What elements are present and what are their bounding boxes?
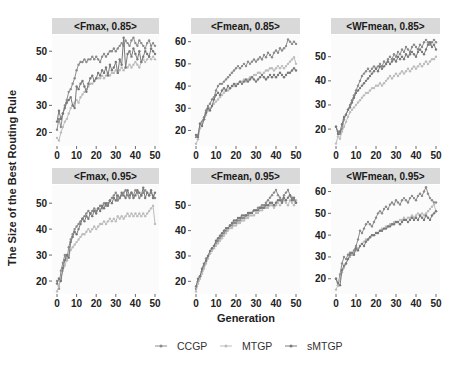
data-point-smtgp: [221, 232, 223, 234]
data-point-mtgp: [361, 97, 363, 99]
data-point-ccgp: [75, 225, 77, 227]
y-tick-label: 50: [175, 58, 187, 69]
data-point-smtgp: [291, 199, 293, 201]
data-point-mtgp: [261, 209, 263, 211]
data-point-ccgp: [221, 83, 223, 85]
faceted-line-chart: The Size of the Best Routing Rule Genera…: [0, 0, 460, 368]
data-point-smtgp: [405, 219, 407, 221]
data-point-smtgp: [407, 56, 409, 58]
data-point-ccgp: [435, 41, 437, 43]
data-point-ccgp: [407, 48, 409, 50]
data-point-mtgp: [62, 126, 64, 128]
data-point-smtgp: [289, 194, 291, 196]
data-point-smtgp: [237, 83, 239, 85]
data-point-ccgp: [154, 45, 156, 47]
data-point-smtgp: [68, 256, 70, 258]
data-point-mtgp: [407, 68, 409, 70]
data-point-smtgp: [355, 92, 357, 94]
data-point-mtgp: [281, 65, 283, 67]
data-point-mtgp: [363, 94, 365, 96]
data-point-ccgp: [231, 72, 233, 74]
data-point-smtgp: [148, 55, 150, 57]
data-point-smtgp: [197, 278, 199, 280]
data-point-smtgp: [58, 277, 60, 279]
data-point-smtgp: [409, 53, 411, 55]
data-point-ccgp: [435, 201, 437, 203]
data-point-ccgp: [227, 76, 229, 78]
data-point-smtgp: [419, 48, 421, 50]
data-point-mtgp: [113, 218, 115, 220]
data-point-mtgp: [93, 225, 95, 227]
data-point-smtgp: [275, 202, 277, 204]
data-point-mtgp: [417, 65, 419, 67]
data-point-smtgp: [279, 199, 281, 201]
data-point-smtgp: [239, 217, 241, 219]
data-point-smtgp: [349, 106, 351, 108]
plot-area: [52, 185, 159, 294]
data-point-ccgp: [289, 40, 291, 42]
y-tick-label: 40: [315, 230, 327, 241]
data-point-smtgp: [99, 74, 101, 76]
data-point-ccgp: [283, 47, 285, 49]
data-point-ccgp: [405, 199, 407, 201]
x-tick-label: 20: [370, 298, 382, 309]
data-point-mtgp: [353, 106, 355, 108]
data-point-mtgp: [113, 72, 115, 74]
x-tick-label: 10: [350, 298, 362, 309]
data-point-smtgp: [341, 269, 343, 271]
data-point-smtgp: [435, 210, 437, 212]
data-point-ccgp: [371, 68, 373, 70]
data-point-mtgp: [425, 60, 427, 62]
data-point-mtgp: [291, 202, 293, 204]
data-point-ccgp: [369, 70, 371, 72]
data-point-smtgp: [285, 74, 287, 76]
data-point-smtgp: [239, 80, 241, 82]
data-point-smtgp: [263, 76, 265, 78]
data-point-smtgp: [281, 74, 283, 76]
data-point-mtgp: [337, 135, 339, 137]
data-point-mtgp: [152, 55, 154, 57]
data-point-smtgp: [389, 225, 391, 227]
data-point-smtgp: [425, 48, 427, 50]
data-point-ccgp: [389, 56, 391, 58]
data-point-smtgp: [339, 130, 341, 132]
data-point-ccgp: [223, 80, 225, 82]
data-point-ccgp: [273, 191, 275, 193]
y-tick-label: 20: [36, 127, 48, 138]
data-point-mtgp: [403, 72, 405, 74]
data-point-mtgp: [339, 138, 341, 140]
data-point-smtgp: [99, 210, 101, 212]
data-point-smtgp: [134, 53, 136, 55]
data-point-smtgp: [433, 43, 435, 45]
data-point-smtgp: [105, 66, 107, 68]
x-tick-label: 30: [390, 150, 402, 161]
data-point-mtgp: [421, 65, 423, 67]
data-point-smtgp: [122, 37, 124, 39]
data-point-smtgp: [83, 220, 85, 222]
data-point-smtgp: [275, 76, 277, 78]
data-point-ccgp: [285, 191, 287, 193]
data-point-smtgp: [405, 53, 407, 55]
data-point-mtgp: [107, 220, 109, 222]
data-point-ccgp: [403, 197, 405, 199]
data-point-smtgp: [138, 192, 140, 194]
data-point-mtgp: [347, 116, 349, 118]
data-point-mtgp: [349, 111, 351, 113]
x-tick-label: 30: [250, 150, 262, 161]
data-point-ccgp: [113, 194, 115, 196]
data-point-ccgp: [427, 193, 429, 195]
y-tick-label: 30: [175, 103, 187, 114]
data-point-smtgp: [413, 53, 415, 55]
y-tick-label: 50: [36, 198, 48, 209]
data-point-mtgp: [73, 243, 75, 245]
data-point-smtgp: [347, 109, 349, 111]
data-point-ccgp: [367, 68, 369, 70]
data-point-ccgp: [93, 58, 95, 60]
data-point-ccgp: [381, 212, 383, 214]
data-point-ccgp: [215, 89, 217, 91]
data-point-mtgp: [134, 61, 136, 63]
data-point-smtgp: [219, 94, 221, 96]
data-point-ccgp: [369, 223, 371, 225]
data-point-smtgp: [223, 87, 225, 89]
data-point-mtgp: [273, 207, 275, 209]
